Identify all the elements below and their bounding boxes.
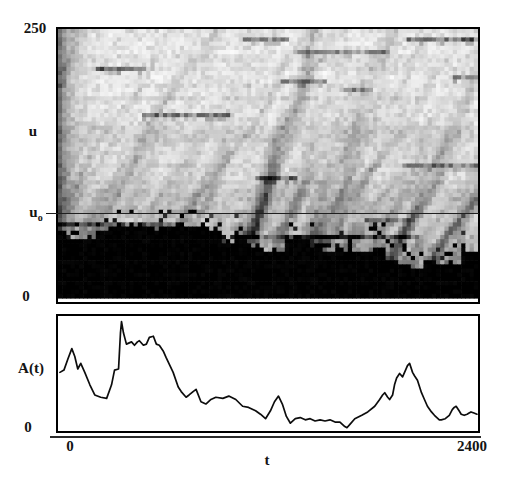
timeseries-ylabel-At: A(t) [18,361,44,376]
heatmap-ref-label-uo: uo [29,205,42,223]
timeseries-ytick-0: 0 [24,420,32,435]
heatmap-ytick-250: 250 [24,21,47,36]
heatmap-ytick-0: 0 [22,289,30,304]
figure: 250 u uo 0 A(t) 0 0 2400 t [0,0,511,485]
uo-reference-line [46,213,479,214]
amplitude-curve [58,316,478,431]
xtick-0: 0 [66,439,74,454]
heatmap-image [58,29,478,302]
heatmap-panel [56,27,480,304]
xtick-2400: 2400 [457,439,487,454]
heatmap-ylabel-u: u [29,124,37,139]
timeseries-panel [56,314,480,433]
ref-label-subscript: o [38,212,43,223]
x-axis-underline [50,436,481,438]
xlabel-t: t [265,453,270,468]
